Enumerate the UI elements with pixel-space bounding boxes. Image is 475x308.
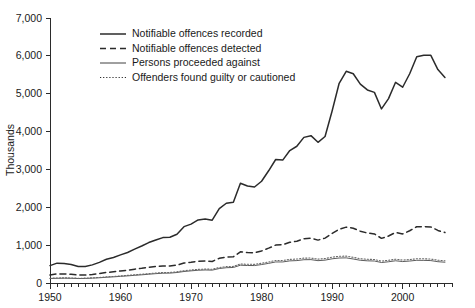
y-axis-title: Thousands — [4, 124, 16, 176]
y-tick-label: 2,000 — [16, 201, 42, 213]
x-tick-label: 2000 — [391, 291, 415, 303]
x-tick-label: 1960 — [109, 291, 133, 303]
series-line — [50, 55, 445, 266]
series-line — [50, 227, 445, 276]
y-tick-label: 7,000 — [16, 12, 42, 24]
chart-legend: Notifiable offences recordedNotifiable o… — [100, 27, 295, 83]
x-tick-label: 1990 — [320, 291, 344, 303]
legend-label: Notifiable offences recorded — [132, 27, 263, 39]
y-tick-label: 4,000 — [16, 125, 42, 137]
y-tick-label: 0 — [36, 277, 42, 289]
legend-label: Notifiable offences detected — [132, 42, 262, 54]
legend-label: Persons proceeded against — [132, 56, 260, 68]
y-tick-label: 5,000 — [16, 87, 42, 99]
y-axis: 01,0002,0003,0004,0005,0006,0007,000 — [16, 12, 50, 289]
series-layer — [50, 55, 445, 278]
y-tick-label: 6,000 — [16, 49, 42, 61]
y-tick-label: 1,000 — [16, 239, 42, 251]
x-axis: 195019601970198019902000 — [38, 283, 452, 303]
chart-canvas: 01,0002,0003,0004,0005,0006,0007,000 195… — [0, 0, 475, 308]
y-tick-label: 3,000 — [16, 163, 42, 175]
series-line — [50, 256, 445, 278]
line-chart: 01,0002,0003,0004,0005,0006,0007,000 195… — [0, 0, 475, 308]
x-tick-label: 1970 — [179, 291, 203, 303]
legend-label: Offenders found guilty or cautioned — [132, 71, 295, 83]
x-tick-label: 1980 — [250, 291, 274, 303]
x-tick-label: 1950 — [38, 291, 62, 303]
